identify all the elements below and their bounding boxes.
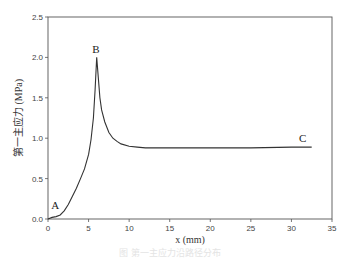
- y-tick-label: 1.0: [32, 134, 44, 143]
- x-tick-label: 15: [165, 224, 174, 233]
- y-tick-label: 0.5: [32, 175, 44, 184]
- point-annotations: ABC: [51, 43, 306, 212]
- x-tick-label: 20: [206, 224, 215, 233]
- axis-ticks: 051015202530350.00.51.01.52.02.5: [32, 13, 337, 233]
- stress-line-chart: 051015202530350.00.51.01.52.02.5 ABC x (…: [0, 0, 340, 261]
- point-label-c: C: [299, 132, 306, 144]
- x-tick-label: 25: [246, 224, 255, 233]
- point-label-a: A: [51, 199, 59, 211]
- x-tick-label: 10: [125, 224, 134, 233]
- stress-curve: [48, 57, 312, 219]
- x-tick-label: 0: [46, 224, 51, 233]
- x-tick-label: 30: [287, 224, 296, 233]
- y-axis-title: 第一主应力 (MPa): [12, 79, 25, 157]
- axes-frame: [48, 17, 332, 219]
- y-tick-label: 1.5: [32, 94, 44, 103]
- y-tick-label: 2.0: [32, 53, 44, 62]
- point-label-b: B: [92, 43, 99, 55]
- y-tick-label: 0.0: [32, 215, 44, 224]
- y-tick-label: 2.5: [32, 13, 44, 22]
- x-tick-label: 35: [328, 224, 337, 233]
- x-axis-title: x (mm): [175, 234, 205, 246]
- figure-caption: 图 第一主应力沿路径分布: [0, 246, 340, 259]
- x-tick-label: 5: [86, 224, 91, 233]
